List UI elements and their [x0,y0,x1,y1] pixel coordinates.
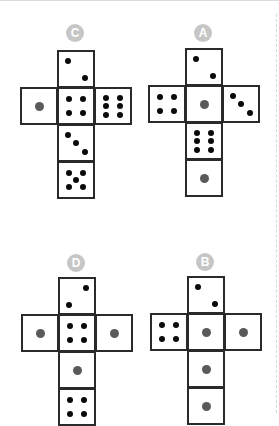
pip-dot [82,75,88,81]
pip-dot [157,108,163,114]
die-face-1 [20,87,58,125]
pip-dot [103,112,109,118]
die-face-2 [187,276,225,314]
pip-dot [173,322,179,328]
pip-dot [67,323,73,329]
pip-dot [208,138,214,144]
pip-dot [212,301,218,307]
die-face-1 [224,313,262,351]
pip-dot [66,96,72,102]
die-face-4 [58,388,96,426]
pip-dot [67,397,73,403]
pip-dot [171,108,177,114]
pip-dot [117,112,123,118]
pip-dot [239,328,248,337]
net-label-b: B [196,253,214,271]
pip-dot [66,302,72,308]
pip-dot [73,366,82,375]
pip-dot [157,94,163,100]
pip-dot [208,147,214,153]
pip-dot [67,337,73,343]
pip-dot [195,284,201,290]
die-face-6 [94,87,132,125]
pip-dot [159,336,165,342]
pip-dot [65,132,71,138]
die-face-1 [185,85,223,123]
pip-dot [80,110,86,116]
pip-dot [103,103,109,109]
net-label-c: C [66,24,84,42]
pip-dot [202,402,211,411]
net-label-a: A [194,24,212,42]
die-face-4 [150,313,188,351]
die-face-4 [57,87,95,125]
pip-dot [247,110,253,116]
pip-dot [200,100,209,109]
die-face-1 [187,387,225,425]
pip-dot [67,411,73,417]
pip-dot [80,184,86,190]
pip-dot [73,177,79,183]
pip-dot [80,96,86,102]
pip-dot [83,285,89,291]
pip-dot [210,73,216,79]
die-face-4 [58,314,96,352]
pip-dot [66,170,72,176]
pip-dot [103,95,109,101]
dashed-divider [276,14,277,413]
pip-dot [81,411,87,417]
pip-dot [81,337,87,343]
pip-dot [200,174,209,183]
pip-dot [238,101,244,107]
pip-dot [66,184,72,190]
net-label-d: D [67,254,85,272]
pip-dot [117,103,123,109]
pip-dot [202,365,211,374]
pip-dot [35,102,44,111]
pip-dot [81,397,87,403]
pip-dot [80,170,86,176]
die-face-3 [222,85,260,123]
pip-dot [194,138,200,144]
pip-dot [194,147,200,153]
die-face-6 [185,122,223,160]
pip-dot [208,130,214,136]
pip-dot [159,322,165,328]
die-face-4 [148,85,186,123]
pip-dot [171,94,177,100]
die-face-1 [187,313,225,351]
die-face-1 [21,314,59,352]
pip-dot [230,93,236,99]
top-divider [0,0,279,1]
die-face-1 [187,350,225,388]
pip-dot [65,58,71,64]
die-face-3 [57,124,95,162]
pip-dot [173,336,179,342]
pip-dot [193,56,199,62]
die-face-1 [58,351,96,389]
pip-dot [110,329,119,338]
pip-dot [66,110,72,116]
pip-dot [202,328,211,337]
pip-dot [117,95,123,101]
die-face-2 [58,277,96,315]
die-face-1 [95,314,133,352]
pip-dot [194,130,200,136]
die-face-2 [185,48,223,86]
die-face-1 [185,159,223,197]
pip-dot [73,140,79,146]
pip-dot [81,323,87,329]
die-face-2 [57,50,95,88]
die-face-5 [57,161,95,199]
pip-dot [82,149,88,155]
pip-dot [36,329,45,338]
